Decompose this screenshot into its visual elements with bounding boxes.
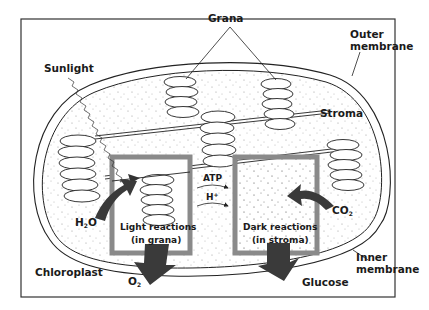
o2-label: O2 (128, 275, 141, 288)
granum-right (327, 140, 364, 191)
glucose-label: Glucose (302, 276, 349, 288)
light-reactions-label: Light reactions (120, 222, 196, 232)
dark-reactions-label-2: (in stroma) (252, 235, 309, 245)
chloroplast-label: Chloroplast (35, 266, 103, 278)
stroma-label: Stroma (320, 107, 363, 119)
inner-membrane (42, 70, 381, 268)
sunlight-label: Sunlight (44, 62, 94, 74)
granum-center (200, 111, 237, 167)
granum-in-light-box (140, 175, 175, 226)
grana-label: Grana (208, 12, 243, 24)
light-reactions-label-2: (in grana) (131, 235, 181, 245)
atp-label: ATP (203, 173, 222, 183)
inner-membrane-label: Inner (356, 251, 388, 263)
inner-membrane-label-2: membrane (356, 263, 419, 275)
outer-membrane-label: Outer (350, 28, 385, 40)
dark-reactions-label: Dark reactions (243, 222, 317, 232)
outer-membrane-label-2: membrane (350, 40, 413, 52)
granum-top-right (261, 79, 295, 130)
chloroplast-diagram: Grana Outer membrane Sunlight Stroma ATP… (0, 0, 429, 310)
